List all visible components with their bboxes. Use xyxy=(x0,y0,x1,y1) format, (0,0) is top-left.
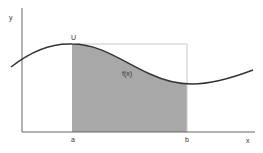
x-axis-label: x xyxy=(246,137,250,144)
peak-label: U xyxy=(71,34,76,41)
y-axis-label: y xyxy=(9,14,13,21)
lower-bound-label: a xyxy=(71,136,75,143)
function-label: f(x) xyxy=(122,70,132,77)
upper-bound-label: b xyxy=(185,136,189,143)
shaded-area xyxy=(72,44,187,132)
